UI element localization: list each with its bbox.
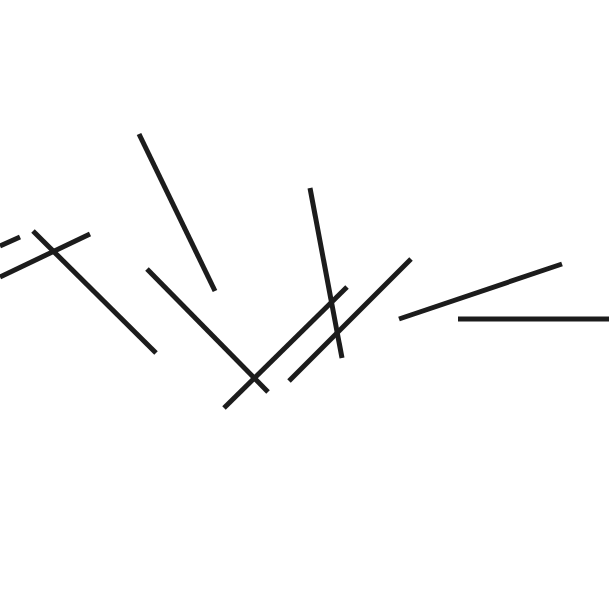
background [0,0,609,600]
line-segments-drawing [0,0,609,600]
line-drawing-canvas [0,0,609,600]
